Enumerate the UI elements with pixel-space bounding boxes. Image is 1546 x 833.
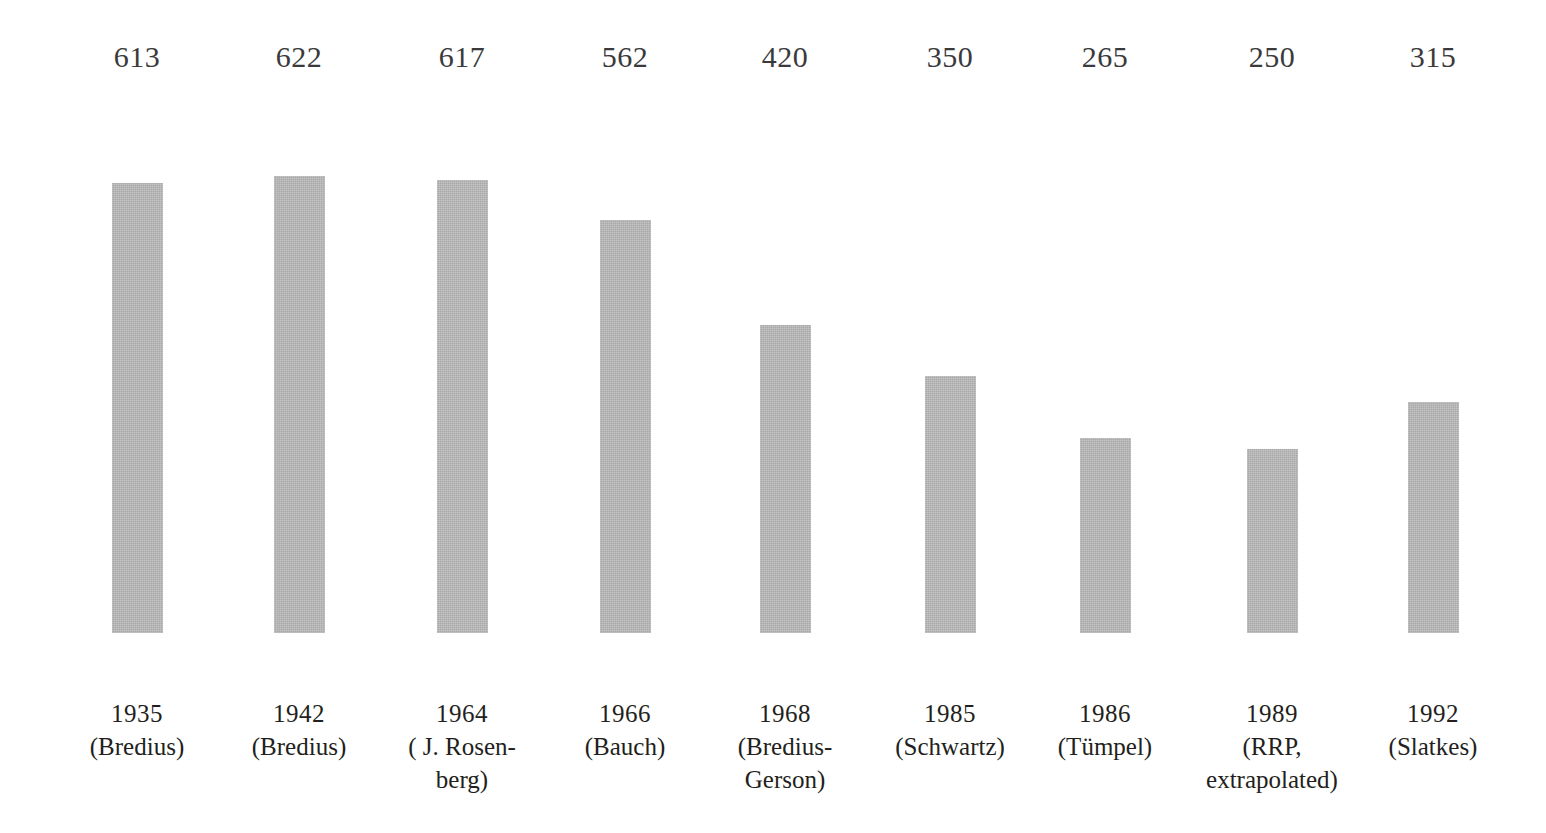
bar-category-source: (Bredius) <box>56 730 219 763</box>
bar-category-year: 1935 <box>56 697 219 730</box>
bar-column: 5621966(Bauch) <box>544 0 707 833</box>
bar-category-source: Gerson) <box>704 763 867 796</box>
bar-value-label: 315 <box>1352 40 1515 74</box>
bar <box>1408 402 1459 633</box>
bar-category-year: 1968 <box>704 697 867 730</box>
bar <box>600 220 651 633</box>
bar-value-label: 420 <box>704 40 867 74</box>
bar-category-label: 1992(Slatkes) <box>1352 697 1515 763</box>
bar-column: 3501985(Schwartz) <box>869 0 1032 833</box>
bar-category-year: 1986 <box>1024 697 1187 730</box>
bar-category-year: 1989 <box>1165 697 1380 730</box>
bar-category-year: 1964 <box>381 697 544 730</box>
bar-category-label: 1966(Bauch) <box>544 697 707 763</box>
bar-category-source: (Schwartz) <box>869 730 1032 763</box>
bar-category-source: berg) <box>381 763 544 796</box>
bar-value-label: 562 <box>544 40 707 74</box>
bar <box>437 180 488 633</box>
bar <box>1247 449 1298 633</box>
bar-category-label: 1964( J. Rosen-berg) <box>381 697 544 796</box>
bar-value-label: 250 <box>1191 40 1354 74</box>
bar-category-label: 1985(Schwartz) <box>869 697 1032 763</box>
bar-category-year: 1942 <box>218 697 381 730</box>
bar-column: 6221942(Bredius) <box>218 0 381 833</box>
bar-category-label: 1989(RRP,extrapolated) <box>1165 697 1380 796</box>
plot-area: 6131935(Bredius)6221942(Bredius)6171964(… <box>0 0 1546 833</box>
bar-category-source: (Bauch) <box>544 730 707 763</box>
bar-column: 2501989(RRP,extrapolated) <box>1191 0 1354 833</box>
bar-category-year: 1992 <box>1352 697 1515 730</box>
bar <box>1080 438 1131 633</box>
bar <box>274 176 325 633</box>
bar-chart: 6131935(Bredius)6221942(Bredius)6171964(… <box>0 0 1546 833</box>
bar-category-source: (RRP, <box>1165 730 1380 763</box>
bar <box>112 183 163 633</box>
bar-column: 6131935(Bredius) <box>56 0 219 833</box>
bar-column: 6171964( J. Rosen-berg) <box>381 0 544 833</box>
bar-category-year: 1966 <box>544 697 707 730</box>
bar-category-source: extrapolated) <box>1165 763 1380 796</box>
bar-column: 2651986(Tümpel) <box>1024 0 1187 833</box>
bar-value-label: 617 <box>381 40 544 74</box>
bar-column: 4201968(Bredius-Gerson) <box>704 0 867 833</box>
bar-value-label: 622 <box>218 40 381 74</box>
bar-value-label: 350 <box>869 40 1032 74</box>
bar-value-label: 613 <box>56 40 219 74</box>
bar-category-label: 1986(Tümpel) <box>1024 697 1187 763</box>
bar <box>925 376 976 633</box>
bar-value-label: 265 <box>1024 40 1187 74</box>
bar-column: 3151992(Slatkes) <box>1352 0 1515 833</box>
bar-category-source: (Bredius- <box>704 730 867 763</box>
bar-category-source: (Slatkes) <box>1352 730 1515 763</box>
bar-category-label: 1968(Bredius-Gerson) <box>704 697 867 796</box>
bar-category-year: 1985 <box>869 697 1032 730</box>
bar-category-source: ( J. Rosen- <box>381 730 544 763</box>
bar <box>760 325 811 633</box>
bar-category-source: (Bredius) <box>218 730 381 763</box>
bar-category-source: (Tümpel) <box>1024 730 1187 763</box>
bar-category-label: 1935(Bredius) <box>56 697 219 763</box>
bar-category-label: 1942(Bredius) <box>218 697 381 763</box>
